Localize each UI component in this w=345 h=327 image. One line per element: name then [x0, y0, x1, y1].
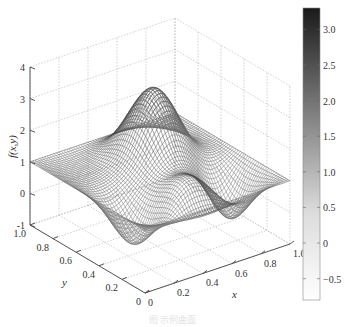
- figure-caption: 图 示例曲面: [0, 313, 345, 326]
- colorbar-gradient: [303, 8, 320, 300]
- x-tick-label: 0.4: [206, 277, 219, 288]
- z-tick-label: 1: [20, 157, 25, 168]
- surface-plot: 00.20.40.60.81.000.20.40.60.81.0-101234 …: [0, 0, 345, 327]
- y-axis-label: y: [61, 276, 67, 288]
- y-tick-label: 0.6: [60, 255, 73, 266]
- colorbar-tick-label: 0: [323, 238, 328, 249]
- colorbar-tick-label: 1.5: [323, 131, 336, 142]
- z-tick-label: -1: [17, 220, 25, 231]
- x-axis-label: x: [231, 288, 237, 300]
- y-tick-label: 0: [136, 296, 141, 307]
- x-tick-label: 0.8: [264, 258, 277, 269]
- tick-labels: 00.20.40.60.81.000.20.40.60.81.0-101234: [14, 62, 306, 308]
- colorbar-tick-label: −0.5: [323, 274, 341, 285]
- z-axis-label: f(x,y): [6, 135, 19, 158]
- z-tick-label: 3: [20, 94, 25, 105]
- z-tick-label: 4: [20, 62, 25, 73]
- colorbar: 3.02.52.01.51.00.50−0.5: [303, 8, 341, 300]
- z-tick-label: 2: [20, 125, 25, 136]
- x-tick-label: 0: [148, 297, 153, 308]
- colorbar-tick-label: 1.0: [323, 167, 336, 178]
- x-tick-label: 0.2: [177, 287, 190, 298]
- y-tick-label: 0.2: [106, 282, 119, 293]
- colorbar-tick-label: 2.0: [323, 96, 336, 107]
- colorbar-tick-label: 3.0: [323, 24, 336, 35]
- x-tick-label: 0.6: [235, 268, 248, 279]
- z-tick-label: 0: [20, 188, 25, 199]
- y-tick-label: 0.4: [83, 269, 96, 280]
- colorbar-tick-label: 0.5: [323, 202, 336, 213]
- colorbar-tick-label: 2.5: [323, 60, 336, 71]
- y-tick-label: 0.8: [37, 242, 50, 253]
